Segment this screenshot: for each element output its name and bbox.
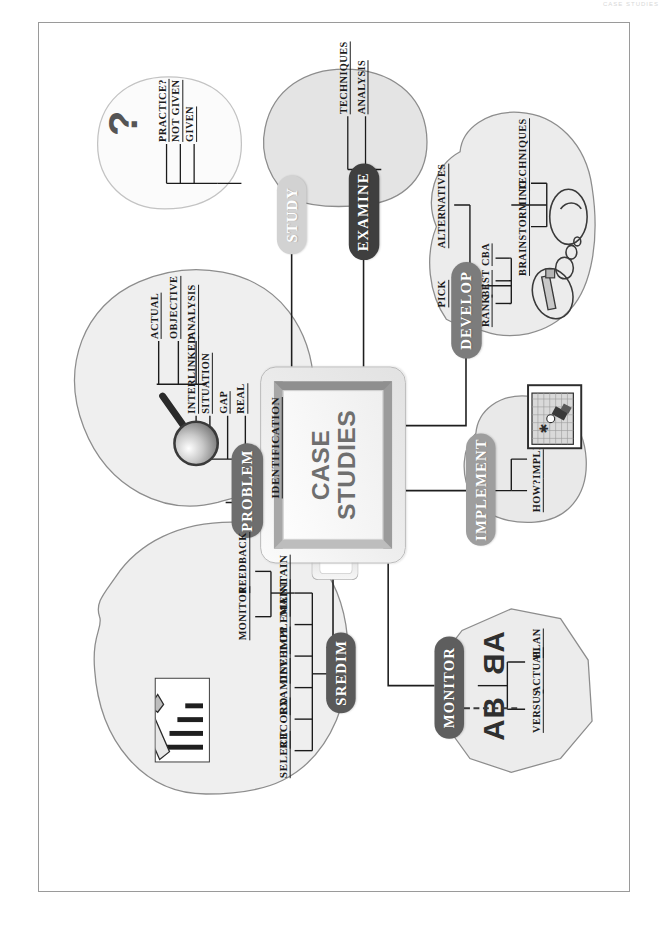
branch-label-sredim: SREDIM	[332, 640, 349, 706]
sub-label-problem-situation: SITUATION	[200, 352, 213, 413]
branch-node-monitor[interactable]: MONITOR	[434, 636, 464, 738]
question-mark-icon: ?	[99, 110, 146, 135]
ab-ba-mirror-illustration: AB AB	[471, 622, 518, 740]
sub-label-sredim-monitor: MONITOR	[237, 586, 250, 640]
sub-label-monitor-plan: PLAN	[531, 628, 544, 658]
sub-label-problem-gap: GAP	[217, 390, 230, 413]
sub-label-sredim-feedback: FEEDBACK	[237, 532, 250, 593]
mind-map-rotated-container: CASE STUDIES SREDIM PROBLEM STUDY EXAMIN…	[48, 41, 619, 888]
branch-node-examine[interactable]: EXAMINE	[348, 163, 379, 260]
ab-text-normal: AB	[477, 696, 510, 741]
branch-label-implement: IMPLEMENT	[472, 438, 489, 541]
sub-label-problem-identification: IDENTIFICATION	[268, 396, 282, 498]
scanned-page: CASE STUDIES	[0, 0, 667, 929]
sub-label-develop-techniques: TECHNIQUES	[517, 118, 530, 191]
sub-label-problem-analysis: ANALYSIS	[186, 284, 199, 339]
sub-label-develop-best: BEST	[479, 269, 492, 297]
sub-label-monitor-versus: VERSUS	[531, 689, 544, 732]
screen-illustration: ✱	[527, 384, 582, 449]
branch-node-develop[interactable]: DEVELOP	[451, 262, 482, 359]
branch-label-study: STUDY	[283, 187, 300, 243]
sub-label-implement-how: HOW?	[531, 479, 544, 512]
sub-label-examine-techniques: TECHNIQUES	[337, 41, 350, 114]
sub-label-problem-real: REAL	[235, 383, 248, 413]
sub-label-develop-rank: RANK	[479, 295, 492, 327]
mirror-dashed-line	[464, 705, 517, 709]
center-label-line2: STUDIES	[333, 409, 359, 519]
branch-label-develop: DEVELOP	[458, 270, 475, 349]
sub-label-sredim-maintain: MAINTAIN	[276, 554, 290, 616]
scan-header-text: CASE STUDIES	[603, 1, 659, 7]
sub-label-develop-pick: PICK	[436, 279, 449, 306]
branch-node-implement[interactable]: IMPLEMENT	[465, 433, 495, 545]
branch-node-sredim[interactable]: SREDIM	[326, 632, 356, 713]
branch-label-monitor: MONITOR	[440, 647, 457, 728]
sub-label-examine-analysis: ANALYSIS	[355, 59, 368, 114]
branch-label-problem: PROBLEM	[238, 449, 255, 531]
ab-text-mirrored: AB	[477, 631, 510, 676]
branch-label-examine: EXAMINE	[355, 172, 372, 251]
sub-label-study-given: GIVEN	[184, 106, 197, 142]
sub-label-develop-brainstorming: BRAINSTORMING	[517, 180, 530, 276]
sub-label-develop-alternatives: ALTERNATIVES	[436, 163, 449, 248]
sub-label-problem-actual: ACTUAL	[148, 292, 161, 338]
branch-node-problem[interactable]: PROBLEM	[231, 443, 263, 538]
center-node-label: CASE STUDIES	[282, 390, 382, 540]
bar-chart-illustration	[154, 677, 209, 762]
sub-label-study-practice: PRACTICE?	[156, 79, 169, 142]
sub-label-study-not-given: NOT GIVEN	[170, 79, 183, 141]
center-label-line1: CASE	[307, 429, 333, 499]
svg-text:✱: ✱	[536, 423, 550, 433]
branch-node-study[interactable]: STUDY	[276, 175, 306, 254]
briefcase-bevel: CASE STUDIES	[273, 381, 391, 548]
sub-label-develop-cba: CBA	[479, 243, 492, 266]
mind-map-canvas: CASE STUDIES SREDIM PROBLEM STUDY EXAMIN…	[48, 41, 619, 888]
sub-label-problem-objective: OBJECTIVE	[168, 275, 181, 338]
sub-label-problem-interlinked: INTERLINKED	[186, 335, 199, 413]
